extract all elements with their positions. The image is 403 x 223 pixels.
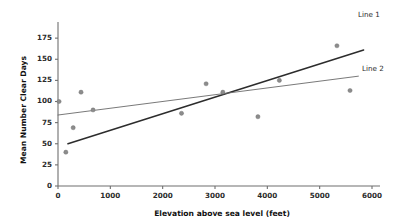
trend-line-2 (58, 76, 358, 115)
y-tick-label: 125 (37, 75, 52, 84)
y-axis-title: Mean Number Clear Days (19, 56, 28, 165)
data-point (256, 115, 260, 119)
x-tick-label: 5000 (310, 191, 330, 200)
x-tick-label: 0 (55, 191, 60, 200)
series-label-1: Line 1 (358, 10, 380, 19)
x-tick-label: 1000 (100, 191, 120, 200)
x-tick-label: 2000 (153, 191, 173, 200)
data-point (71, 126, 75, 130)
y-axis: 0255075100125150175 (37, 22, 58, 190)
y-tick-label: 75 (42, 118, 52, 127)
x-axis: 0100020003000400050006000 (55, 186, 382, 200)
y-tick-label: 100 (37, 96, 52, 105)
x-tick-label: 4000 (257, 191, 277, 200)
data-point (221, 90, 225, 94)
series-label-2: Line 2 (362, 64, 384, 73)
scatter-chart: 0255075100125150175 01000200030004000500… (0, 0, 403, 223)
data-point (79, 90, 83, 94)
y-tick-label: 0 (47, 181, 52, 190)
chart-canvas: 0255075100125150175 01000200030004000500… (0, 0, 403, 223)
data-point (335, 44, 339, 48)
data-point (179, 111, 183, 115)
data-point (348, 88, 352, 92)
data-point (204, 82, 208, 86)
series-annotations: Line 1Line 2 (358, 10, 384, 73)
trend-line-1 (68, 50, 364, 144)
data-point (91, 108, 95, 112)
data-points (57, 44, 352, 155)
data-point (64, 150, 68, 154)
x-tick-label: 3000 (205, 191, 225, 200)
y-tick-label: 25 (42, 160, 52, 169)
x-axis-title: Elevation above sea level (feet) (154, 209, 290, 218)
data-point (277, 78, 281, 82)
y-tick-label: 175 (37, 33, 52, 42)
y-tick-label: 50 (42, 139, 52, 148)
data-point (57, 99, 61, 103)
trend-lines (58, 50, 364, 144)
y-tick-label: 150 (37, 54, 52, 63)
x-tick-label: 6000 (362, 191, 382, 200)
